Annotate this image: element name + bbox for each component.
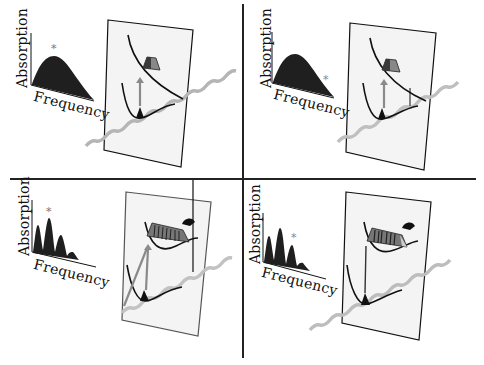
energy-diagram (122, 180, 232, 336)
asterisk-marker: * (323, 73, 329, 86)
asterisk-marker: * (291, 231, 297, 244)
panel-bottom-right: * Absorption Frequency (242, 180, 484, 365)
y-axis-label: Absorption (16, 176, 32, 256)
energy-diagram (86, 20, 236, 167)
asterisk-marker: * (51, 42, 57, 55)
energy-diagram (310, 192, 450, 340)
panel-bottom-left: * Absorption Frequency (0, 180, 242, 365)
y-axis-label: Absorption (14, 8, 30, 88)
energy-diagram (338, 23, 458, 170)
panel-top-left: * Absorption Frequency (0, 0, 242, 180)
asterisk-marker: * (46, 205, 52, 218)
panel-top-right: * Absorption Frequency (242, 0, 484, 180)
y-axis-label: Absorption (247, 184, 263, 264)
y-axis-label: Absorption (258, 8, 274, 88)
